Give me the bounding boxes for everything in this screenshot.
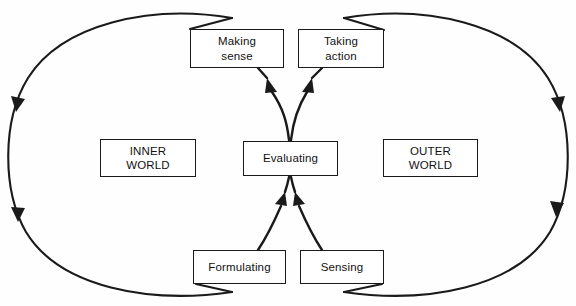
node-evaluating[interactable]: Evaluating bbox=[243, 141, 338, 176]
left-loop-tail-top bbox=[190, 18, 232, 29]
connector-making-sense-stub bbox=[258, 68, 267, 78]
arrowhead-evaluating-from-formulating bbox=[275, 192, 287, 206]
node-label-taking-action: Taking action bbox=[324, 34, 358, 62]
node-label-sensing: Sensing bbox=[321, 260, 364, 274]
right-loop-tail-bottom bbox=[344, 284, 382, 292]
connector-evaluating-to-taking-action bbox=[291, 92, 307, 140]
arrowhead-evaluating-from-sensing bbox=[293, 192, 305, 206]
connector-evaluating-bottom-left-stub bbox=[285, 177, 289, 192]
arrowhead-making-sense bbox=[265, 78, 277, 93]
node-inner-world[interactable]: INNER WORLD bbox=[100, 139, 196, 177]
connector-taking-action-stub bbox=[312, 68, 322, 78]
node-label-evaluating: Evaluating bbox=[263, 151, 318, 165]
connector-evaluating-bottom-right-stub bbox=[291, 177, 295, 192]
node-label-outer-world: OUTER WORLD bbox=[409, 144, 453, 172]
node-label-inner-world: INNER WORLD bbox=[126, 144, 170, 172]
node-outer-world[interactable]: OUTER WORLD bbox=[383, 139, 478, 177]
left-loop-arrowhead-lower bbox=[11, 207, 25, 222]
connector-evaluating-to-making-sense bbox=[272, 92, 289, 140]
diagram-canvas: Making sense Taking action INNER WORLD E… bbox=[0, 0, 576, 306]
node-label-formulating: Formulating bbox=[208, 260, 270, 274]
right-loop-arrowhead-upper bbox=[551, 96, 565, 112]
connector-formulating-to-evaluating bbox=[258, 206, 281, 250]
arrowhead-taking-action bbox=[302, 78, 314, 93]
connector-sensing-to-evaluating bbox=[299, 206, 322, 250]
node-taking-action[interactable]: Taking action bbox=[298, 29, 384, 68]
right-loop-arrowhead-lower bbox=[550, 201, 564, 217]
node-making-sense[interactable]: Making sense bbox=[190, 29, 284, 68]
left-loop-tail-bottom bbox=[196, 284, 232, 292]
node-label-making-sense: Making sense bbox=[218, 34, 256, 62]
node-sensing[interactable]: Sensing bbox=[300, 250, 384, 284]
node-formulating[interactable]: Formulating bbox=[193, 250, 286, 284]
left-loop-arrowhead-upper bbox=[11, 96, 25, 112]
